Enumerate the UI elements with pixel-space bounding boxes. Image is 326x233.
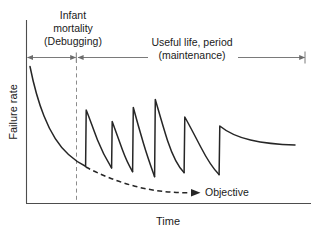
- infant-mortality-label-line2: mortality: [53, 22, 93, 34]
- useful-life-label-line1: Useful life, period: [151, 36, 232, 48]
- objective-label: Objective: [205, 186, 249, 198]
- infant-mortality-label-line1: Infant: [60, 9, 86, 21]
- x-axis-label: Time: [156, 215, 180, 227]
- infant-mortality-label-line3: (Debugging): [44, 35, 102, 47]
- bathtub-failure-rate-chart: Infant mortality (Debugging) Useful life…: [0, 0, 326, 233]
- useful-life-label-line2: (maintenance): [158, 49, 225, 61]
- y-axis-label: Failure rate: [7, 84, 19, 140]
